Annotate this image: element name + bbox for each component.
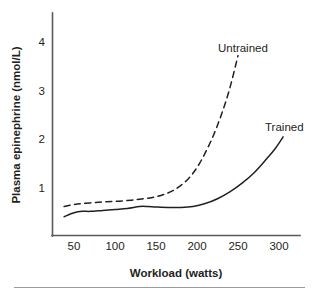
series-label-trained: Trained bbox=[265, 121, 304, 133]
chart-figure: 4 3 2 1 50 100 150 200 250 300 Untrained… bbox=[0, 0, 319, 294]
x-tick-label-300: 300 bbox=[269, 240, 288, 252]
x-tick-label-200: 200 bbox=[187, 240, 206, 252]
x-axis-title: Workload (watts) bbox=[130, 267, 223, 279]
x-tick-label-250: 250 bbox=[228, 240, 247, 252]
x-tick-label-100: 100 bbox=[105, 240, 124, 252]
series-line-trained bbox=[64, 137, 283, 217]
y-tick-label-4: 4 bbox=[39, 36, 46, 48]
series-line-untrained bbox=[64, 56, 238, 207]
y-tick-label-2: 2 bbox=[39, 133, 45, 145]
series-label-untrained: Untrained bbox=[218, 42, 268, 54]
chart-canvas: 4 3 2 1 50 100 150 200 250 300 Untrained… bbox=[0, 0, 319, 294]
x-tick-label-150: 150 bbox=[146, 240, 165, 252]
y-tick-label-1: 1 bbox=[39, 182, 45, 194]
y-axis-title: Plasma epinephrine (nmol/L) bbox=[10, 46, 22, 203]
x-tick-label-50: 50 bbox=[68, 240, 81, 252]
y-tick-label-3: 3 bbox=[39, 85, 45, 97]
